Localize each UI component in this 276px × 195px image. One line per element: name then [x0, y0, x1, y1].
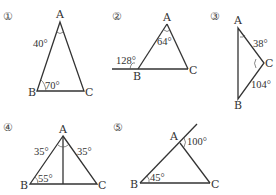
angle-label-a-left: 35°: [34, 146, 49, 157]
figure-number: ④: [3, 121, 13, 134]
angle-label-a: 40°: [33, 38, 48, 49]
vertex-a-label: A: [169, 130, 179, 143]
angle-label-a-exterior: 100°: [187, 136, 207, 147]
vertex-a-label: A: [162, 11, 172, 24]
figure-5: ⑤ A B C 100° 45°: [113, 121, 219, 191]
figure-number: ①: [3, 10, 13, 23]
figure-number: ③: [210, 10, 220, 23]
vertex-a-label: A: [233, 14, 243, 27]
angle-label-a: 38°: [253, 38, 268, 49]
vertex-a-label: A: [55, 8, 65, 21]
angle-arc-a: [164, 30, 170, 32]
vertex-c-label: C: [211, 178, 219, 191]
figure-2: ② A B C 128° 64°: [112, 10, 197, 83]
angle-arc-a-right: [63, 145, 68, 147]
angle-arc-b: [147, 176, 149, 183]
figure-1: ① A B C 40° 70°: [3, 8, 93, 99]
vertex-b-label: B: [130, 178, 138, 191]
figure-number: ②: [112, 10, 122, 23]
angle-label-a: 64°: [157, 36, 172, 47]
angle-label-b-exterior: 128°: [116, 55, 136, 66]
vertex-c-label: C: [98, 179, 106, 192]
vertex-c-label: C: [265, 57, 273, 70]
figure-4: ④ A B C 35° 35° 55°: [3, 121, 106, 192]
angle-arc-a: [57, 32, 64, 34]
side-ac: [180, 143, 210, 183]
vertex-c-label: C: [85, 86, 93, 99]
vertex-c-label: C: [189, 64, 197, 77]
angle-label-b: 70°: [45, 80, 60, 91]
angle-arc-a-left: [58, 145, 63, 147]
vertex-b-label: B: [20, 179, 28, 192]
vertex-b-label: B: [133, 70, 141, 83]
angle-arc-a-exterior: [184, 138, 186, 147]
vertex-b-label: B: [28, 86, 36, 99]
angle-label-c: 104°: [251, 79, 271, 90]
vertex-a-label: A: [58, 123, 68, 136]
angle-label-a-right: 35°: [77, 146, 92, 157]
angle-arc-c: [255, 59, 257, 68]
angle-label-b: 55°: [38, 173, 53, 184]
angle-label-b: 45°: [150, 172, 165, 183]
figure-3: ③ A B C 38° 104°: [210, 10, 273, 112]
figure-number: ⑤: [113, 121, 123, 134]
vertex-b-label: B: [234, 99, 242, 112]
triangle-figures: ① A B C 40° 70° ② A B C 128° 64° ③ A B C…: [0, 0, 276, 195]
